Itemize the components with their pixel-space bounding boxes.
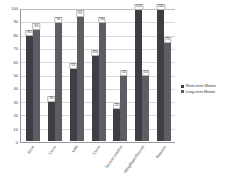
bar-value-label: 90: [98, 17, 105, 23]
y-axis-tick-label: 50: [14, 74, 18, 78]
y-axis-tick-label: 30: [14, 101, 18, 105]
bar[interactable]: 65: [92, 55, 99, 141]
x-axis-label-slot: VPR: [65, 144, 87, 188]
bar-value-label: 90: [55, 17, 62, 23]
y-axis-tick-label: 80: [14, 34, 18, 38]
bar-value-label: 95: [76, 10, 83, 16]
bar-value-label: 85: [33, 23, 40, 29]
x-axis-label: Curve: [92, 145, 101, 156]
bar[interactable]: 25: [113, 108, 120, 141]
legend-item[interactable]: Long-term Motion: [181, 90, 239, 94]
bar-group: 10050: [131, 9, 153, 141]
y-axis-tick-label: 100: [11, 7, 18, 11]
bar-value-label: 75: [164, 37, 171, 43]
y-axis-tick-label: 40: [14, 87, 18, 91]
x-axis-label-slot: Wing/Ratio/Second: [131, 144, 153, 188]
legend-swatch-icon: [181, 90, 184, 93]
bar[interactable]: 100: [157, 9, 164, 141]
x-axis-label: Drive: [27, 145, 35, 155]
y-axis-tick-label: 10: [14, 127, 18, 131]
legend-swatch-icon: [181, 85, 184, 88]
x-axis-label-slot: Random: [153, 144, 175, 188]
bar-group: 3090: [44, 9, 66, 141]
bar-value-label: 100: [156, 4, 165, 10]
bar-group: 6590: [88, 9, 110, 141]
x-axis-label: VPR: [71, 145, 79, 154]
bar-chart: 0102030405060708090100 80853090559565902…: [0, 0, 239, 190]
legend-label: Long-term Motion: [186, 90, 216, 94]
bar[interactable]: 50: [120, 75, 127, 141]
bar-groups: 808530905595659025501005010075: [22, 9, 175, 141]
bar-group: 10075: [153, 9, 175, 141]
legend-item[interactable]: Short-term Motion: [181, 84, 239, 88]
x-axis-label: Random: [156, 145, 168, 159]
x-axis-label: Curve: [48, 145, 57, 156]
y-axis-tick-label: 60: [14, 60, 18, 64]
bar[interactable]: 85: [33, 29, 40, 141]
bar[interactable]: 75: [164, 42, 171, 141]
x-axis-labels: DriveCurveVPRCurveSecond positionWing/Ra…: [21, 144, 175, 188]
legend-label: Short-term Motion: [186, 84, 216, 88]
bar[interactable]: 80: [26, 35, 33, 141]
bar-value-label: 50: [120, 70, 127, 76]
y-axis-tick-label: 20: [14, 114, 18, 118]
bar-value-label: 100: [134, 4, 143, 10]
bar-group: 5595: [66, 9, 88, 141]
bar[interactable]: 50: [142, 75, 149, 141]
bar[interactable]: 30: [48, 101, 55, 141]
y-axis-tick-label: 70: [14, 47, 18, 51]
plot-area: 808530905595659025501005010075: [20, 9, 175, 143]
y-axis-tick-label: 0: [16, 141, 18, 145]
y-axis-tick-label: 90: [14, 20, 18, 24]
bar-value-label: 50: [142, 70, 149, 76]
chart-legend: Short-term MotionLong-term Motion: [181, 84, 239, 95]
bar-group: 8085: [22, 9, 44, 141]
bar-group: 2550: [109, 9, 131, 141]
x-axis-label-slot: Drive: [21, 144, 43, 188]
bar[interactable]: 90: [55, 22, 62, 141]
x-axis-label-slot: Curve: [43, 144, 65, 188]
bar[interactable]: 55: [70, 68, 77, 141]
plot-area-wrapper: 808530905595659025501005010075: [20, 9, 175, 143]
bar[interactable]: 90: [99, 22, 106, 141]
y-axis-ticks: 0102030405060708090100: [0, 9, 20, 143]
bar[interactable]: 95: [77, 16, 84, 141]
